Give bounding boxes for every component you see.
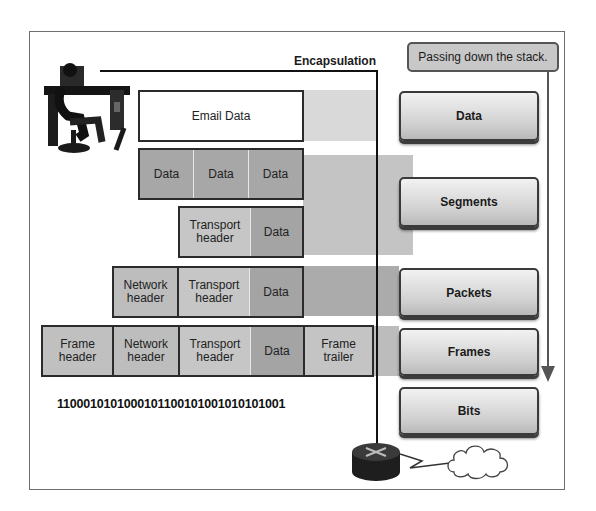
cell-data: Data xyxy=(250,268,302,316)
cell-email-data: Email Data xyxy=(140,92,302,140)
cell-data-2: Data xyxy=(194,150,249,198)
band-data xyxy=(303,90,377,141)
band-packets xyxy=(303,266,399,316)
cell-data: Data xyxy=(251,327,305,375)
down-arrow-icon xyxy=(541,366,555,382)
router-icon xyxy=(350,440,406,484)
layer-data: Data xyxy=(399,91,539,141)
row-application: Email Data xyxy=(138,90,304,142)
cell-data-3: Data xyxy=(249,150,302,198)
row-packet: Network header Transport header Data xyxy=(112,266,304,318)
row-frame: Frame header Network header Transport he… xyxy=(41,325,374,377)
connector-top-line xyxy=(100,70,377,72)
stack-note: Passing down the stack. xyxy=(407,42,559,72)
band-segments xyxy=(303,155,413,255)
cloud-icon xyxy=(444,440,512,480)
encapsulation-title: Encapsulation xyxy=(294,54,376,68)
layer-bits: Bits xyxy=(399,387,539,435)
connector-vertical-line xyxy=(376,70,378,458)
cell-data: Data xyxy=(251,208,302,256)
cell-frame-trailer: Frame trailer xyxy=(305,327,372,375)
serial-link-icon xyxy=(400,452,450,474)
cell-frame-header: Frame header xyxy=(43,327,114,375)
bitstream-text: 1100010101000101100101001010101001 xyxy=(57,397,285,411)
down-arrow-shaft xyxy=(547,72,549,370)
layer-packets: Packets xyxy=(399,268,539,317)
row-segmented-data: Data Data Data xyxy=(138,148,304,200)
layer-frames: Frames xyxy=(399,328,539,376)
cell-network-header: Network header xyxy=(114,327,180,375)
cell-data-1: Data xyxy=(140,150,194,198)
cell-transport-header: Transport header xyxy=(180,208,251,256)
cell-network-header: Network header xyxy=(114,268,179,316)
cell-transport-header: Transport header xyxy=(180,327,251,375)
user-at-computer-icon xyxy=(40,58,135,158)
row-segment: Transport header Data xyxy=(178,206,304,258)
layer-segments: Segments xyxy=(399,177,539,227)
cell-transport-header: Transport header xyxy=(179,268,250,316)
